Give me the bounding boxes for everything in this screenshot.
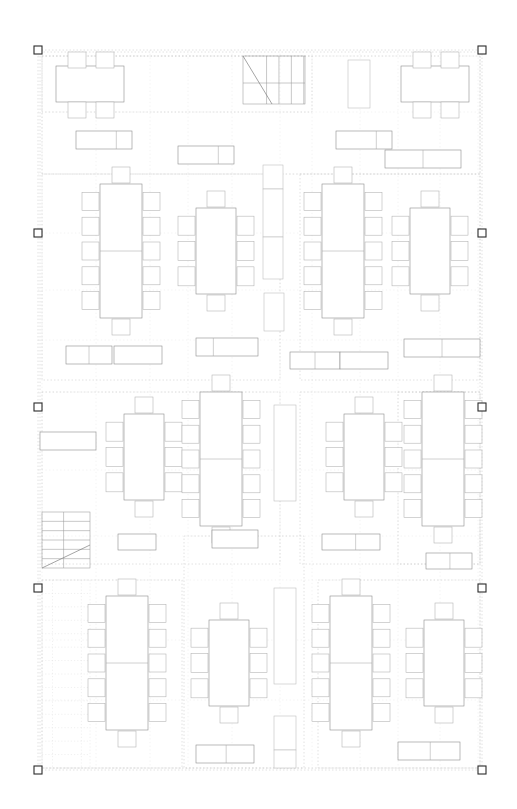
table-b4-12seat-chair-right-3[interactable] — [465, 450, 482, 468]
table-c3-12seat-chair-head[interactable] — [342, 579, 360, 595]
table-n2-6seat-chair-bottom-1[interactable] — [413, 102, 431, 118]
table-a3-12seat-chair-right-3[interactable] — [365, 242, 382, 260]
cabinet-m-tall-4[interactable] — [264, 293, 284, 331]
table-a2-8seat-chair-head[interactable] — [207, 191, 225, 207]
table-a4-8seat-chair-left-2[interactable] — [392, 242, 409, 261]
handle-mid-right-3[interactable] — [478, 584, 486, 592]
table-c1-12seat-chair-left-2[interactable] — [88, 629, 105, 647]
credenza-l1[interactable] — [40, 432, 96, 450]
table-c1-12seat-chair-left-4[interactable] — [88, 679, 105, 697]
handle-bottom-left[interactable] — [34, 766, 42, 774]
table-n1-6seat-chair-top-1[interactable] — [68, 52, 86, 68]
table-n1-6seat-chair-bottom-1[interactable] — [68, 102, 86, 118]
handle-bottom-right[interactable] — [478, 766, 486, 774]
table-b3-8seat-chair-right-1[interactable] — [385, 422, 402, 441]
table-b2-12seat-chair-right-3[interactable] — [243, 450, 260, 468]
table-c1-12seat-chair-foot[interactable] — [118, 731, 136, 747]
table-a4-8seat[interactable] — [392, 191, 468, 311]
table-b2-12seat-chair-left-2[interactable] — [182, 425, 199, 443]
table-a4-8seat-chair-left-1[interactable] — [392, 216, 409, 235]
furniture-layer[interactable] — [40, 52, 482, 768]
table-c1-12seat-chair-left-5[interactable] — [88, 704, 105, 722]
table-n2-6seat-chair-bottom-2[interactable] — [441, 102, 459, 118]
credenza-m1[interactable] — [66, 346, 112, 364]
table-a1-12seat[interactable] — [82, 167, 160, 335]
table-c2-8seat-chair-left-3[interactable] — [191, 679, 208, 698]
table-a1-12seat-chair-right-5[interactable] — [143, 292, 160, 310]
table-b4-12seat-chair-left-4[interactable] — [404, 475, 421, 493]
table-b4-12seat-chair-left-2[interactable] — [404, 425, 421, 443]
table-n2-6seat[interactable] — [401, 52, 469, 118]
table-n2-6seat-chair-top-1[interactable] — [413, 52, 431, 68]
table-a4-8seat-chair-left-3[interactable] — [392, 267, 409, 286]
table-a3-12seat-chair-right-2[interactable] — [365, 217, 382, 235]
table-c4-8seat-chair-left-2[interactable] — [406, 654, 423, 673]
table-a4-8seat-chair-head[interactable] — [421, 191, 439, 207]
table-b1-8seat-chair-left-3[interactable] — [106, 473, 123, 492]
table-a4-8seat-chair-right-2[interactable] — [451, 242, 468, 261]
table-c3-12seat-chair-left-5[interactable] — [312, 704, 329, 722]
table-c2-8seat-chair-foot[interactable] — [220, 707, 238, 723]
table-b3-8seat-chair-head[interactable] — [355, 397, 373, 413]
cabinet-c-tall-1[interactable] — [274, 588, 296, 684]
table-b2-12seat-chair-left-5[interactable] — [182, 500, 199, 518]
table-a2-8seat-chair-right-1[interactable] — [237, 216, 254, 235]
credenza-m4[interactable] — [290, 352, 340, 369]
table-b2-12seat-chair-left-1[interactable] — [182, 400, 199, 418]
cabinet-n-tall-1[interactable] — [348, 60, 370, 108]
table-c2-8seat-chair-left-1[interactable] — [191, 628, 208, 647]
table-a3-12seat-chair-left-4[interactable] — [304, 267, 321, 285]
table-a3-12seat-chair-right-5[interactable] — [365, 292, 382, 310]
credenza-m2[interactable] — [114, 346, 162, 364]
table-c4-8seat-chair-left-3[interactable] — [406, 679, 423, 698]
floor-plan-canvas[interactable] — [0, 0, 517, 809]
table-c2-8seat-chair-head[interactable] — [220, 603, 238, 619]
table-c3-12seat-chair-left-1[interactable] — [312, 604, 329, 622]
table-b1-8seat-chair-left-1[interactable] — [106, 422, 123, 441]
table-a3-12seat-chair-left-5[interactable] — [304, 292, 321, 310]
table-b4-12seat-chair-foot[interactable] — [434, 527, 452, 543]
table-a2-8seat-chair-right-2[interactable] — [237, 242, 254, 261]
table-c3-12seat-chair-right-5[interactable] — [373, 704, 390, 722]
floor-plan-drawing[interactable] — [0, 0, 517, 809]
table-a4-8seat-chair-right-3[interactable] — [451, 267, 468, 286]
table-b1-8seat[interactable] — [106, 397, 182, 517]
table-b2-12seat-chair-right-2[interactable] — [243, 425, 260, 443]
table-a1-12seat-chair-head[interactable] — [112, 167, 130, 183]
table-b3-8seat-chair-foot[interactable] — [355, 501, 373, 517]
cabinet-c-tall-3[interactable] — [274, 750, 296, 768]
credenza-k3[interactable] — [322, 534, 380, 550]
table-b2-12seat-chair-right-5[interactable] — [243, 500, 260, 518]
table-b3-8seat-chair-left-3[interactable] — [326, 473, 343, 492]
credenza-n3[interactable] — [336, 131, 392, 149]
table-c1-12seat-chair-right-5[interactable] — [149, 704, 166, 722]
table-b4-12seat-chair-head[interactable] — [434, 375, 452, 391]
table-c3-12seat[interactable] — [312, 579, 390, 747]
table-c3-12seat-chair-right-2[interactable] — [373, 629, 390, 647]
table-a3-12seat-chair-right-4[interactable] — [365, 267, 382, 285]
table-c4-8seat-chair-right-1[interactable] — [465, 628, 482, 647]
table-c1-12seat-chair-head[interactable] — [118, 579, 136, 595]
table-c4-8seat-chair-right-2[interactable] — [465, 654, 482, 673]
table-a4-8seat-chair-right-1[interactable] — [451, 216, 468, 235]
table-c3-12seat-chair-left-4[interactable] — [312, 679, 329, 697]
table-c2-8seat-chair-left-2[interactable] — [191, 654, 208, 673]
table-a1-12seat-chair-left-3[interactable] — [82, 242, 99, 260]
table-a1-12seat-chair-left-4[interactable] — [82, 267, 99, 285]
handle-mid-left-3[interactable] — [34, 584, 42, 592]
table-a3-12seat-chair-head[interactable] — [334, 167, 352, 183]
table-a3-12seat[interactable] — [304, 167, 382, 335]
table-a1-12seat-chair-foot[interactable] — [112, 319, 130, 335]
table-c4-8seat-chair-foot[interactable] — [435, 707, 453, 723]
handle-top-right[interactable] — [478, 46, 486, 54]
table-n1-6seat-chair-bottom-2[interactable] — [96, 102, 114, 118]
table-b3-8seat-chair-left-1[interactable] — [326, 422, 343, 441]
table-c1-12seat[interactable] — [88, 579, 166, 747]
table-c2-8seat-chair-right-2[interactable] — [250, 654, 267, 673]
table-c4-8seat-chair-right-3[interactable] — [465, 679, 482, 698]
table-a3-12seat-chair-left-3[interactable] — [304, 242, 321, 260]
table-c2-8seat-chair-right-3[interactable] — [250, 679, 267, 698]
table-b2-12seat[interactable] — [182, 375, 260, 543]
handle-mid-right-2[interactable] — [478, 403, 486, 411]
table-b1-8seat-chair-right-2[interactable] — [165, 448, 182, 467]
